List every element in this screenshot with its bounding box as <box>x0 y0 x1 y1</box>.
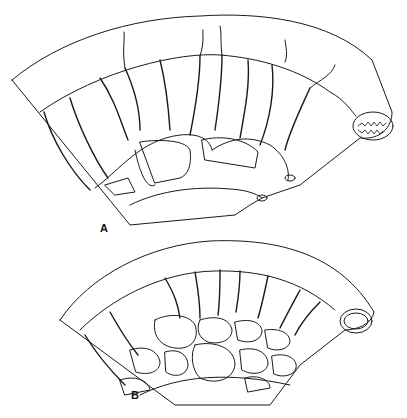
panel-b-drawing <box>60 241 374 405</box>
panel-a-drawing <box>12 15 393 225</box>
diagram-figure <box>0 0 407 418</box>
panel-label-a: A <box>100 222 108 234</box>
panel-label-b: B <box>131 389 139 401</box>
